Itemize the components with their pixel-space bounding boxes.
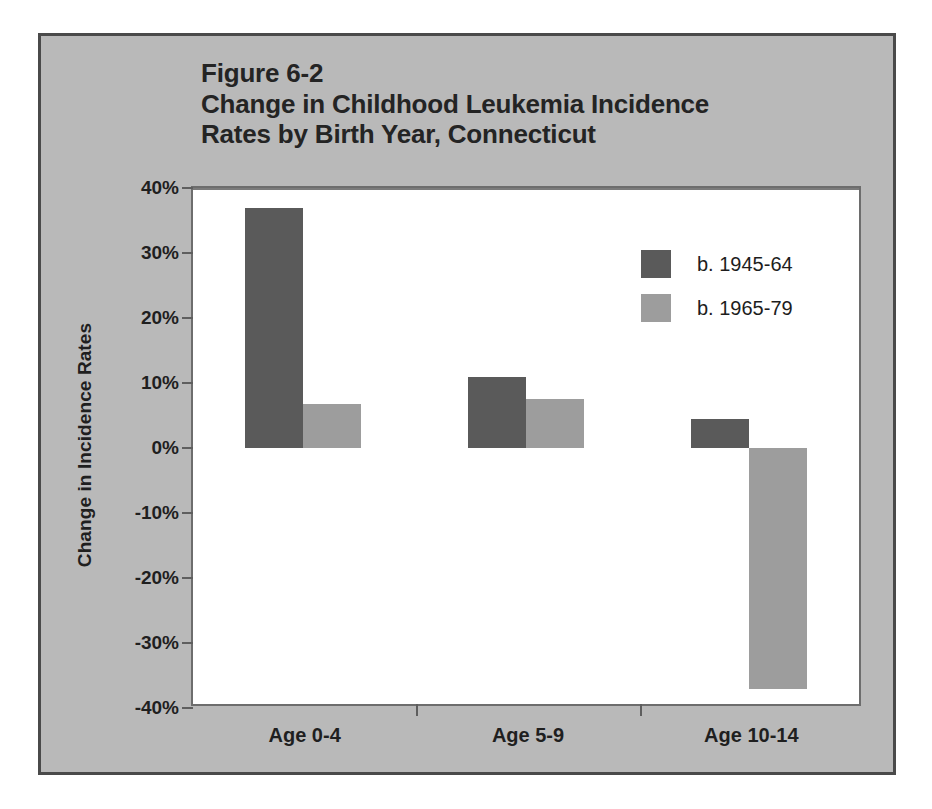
bar-age-5-9-b-1945-64 bbox=[468, 377, 526, 449]
y-axis-tick-mark bbox=[182, 707, 193, 709]
y-axis-tick-mark bbox=[182, 577, 193, 579]
bar-age-5-9-b-1965-79 bbox=[526, 399, 584, 448]
bar-age-10-14-b-1965-79 bbox=[749, 448, 807, 689]
x-axis-tick-mark bbox=[640, 704, 642, 716]
y-axis-tick-mark bbox=[182, 512, 193, 514]
figure-root: Figure 6-2 Change in Childhood Leukemia … bbox=[0, 0, 932, 809]
figure-panel: Figure 6-2 Change in Childhood Leukemia … bbox=[38, 33, 896, 775]
figure-number: Figure 6-2 bbox=[201, 58, 841, 89]
y-axis-tick-mark bbox=[182, 382, 193, 384]
y-axis-tick-mark bbox=[182, 252, 193, 254]
x-axis-category-label: Age 10-14 bbox=[704, 724, 799, 747]
y-axis-tick-mark bbox=[182, 447, 193, 449]
legend: b. 1945-64b. 1965-79 bbox=[641, 242, 793, 330]
zero-baseline bbox=[193, 188, 859, 190]
figure-title-line-1: Change in Childhood Leukemia Incidence bbox=[201, 89, 841, 120]
x-axis-category-label: Age 0-4 bbox=[269, 724, 341, 747]
y-axis-tick-mark bbox=[182, 317, 193, 319]
legend-item: b. 1965-79 bbox=[641, 286, 793, 330]
legend-label: b. 1965-79 bbox=[697, 297, 793, 320]
legend-label: b. 1945-64 bbox=[697, 253, 793, 276]
legend-item: b. 1945-64 bbox=[641, 242, 793, 286]
bar-age-0-4-b-1965-79 bbox=[303, 404, 361, 448]
figure-title: Figure 6-2 Change in Childhood Leukemia … bbox=[201, 58, 841, 150]
figure-title-line-2: Rates by Birth Year, Connecticut bbox=[201, 119, 841, 150]
y-axis-tick-mark bbox=[182, 642, 193, 644]
bar-age-10-14-b-1945-64 bbox=[691, 419, 749, 448]
x-axis-tick-mark bbox=[416, 704, 418, 716]
legend-swatch bbox=[641, 250, 671, 278]
y-axis-tick-mark bbox=[182, 187, 193, 189]
bar-age-0-4-b-1945-64 bbox=[245, 208, 303, 449]
y-axis-title: Change in Incidence Rates bbox=[74, 285, 96, 605]
x-axis-category-label: Age 5-9 bbox=[492, 724, 564, 747]
legend-swatch bbox=[641, 294, 671, 322]
